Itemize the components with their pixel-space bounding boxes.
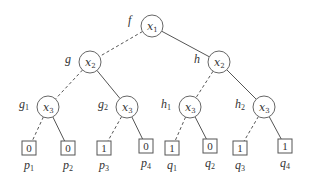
leaf-value: 1 [169, 142, 175, 154]
edge-h1-q1-dashed [175, 117, 186, 141]
edge-h2-q3-dashed [244, 116, 258, 141]
leaf-label-q1: q1 [167, 158, 177, 173]
decision-tree-diagram: x1fx2gx2hx3g1x3g2x3h1x3h2 0p10p21p30p41q… [0, 0, 312, 180]
edge-h1-q2-solid [195, 117, 206, 139]
leaf-q2: 0q2 [203, 139, 217, 171]
node-g2: x3g2 [98, 96, 138, 118]
leaf-p4: 0p4 [139, 139, 153, 171]
edge-root-g-dashed [100, 32, 143, 57]
leaf-q1: 1q1 [165, 141, 179, 173]
function-label-g1: g1 [19, 97, 29, 112]
edge-h-h1-dashed [196, 71, 213, 98]
leaf-p3: 1p3 [97, 141, 111, 173]
function-label-h: h [194, 52, 200, 66]
leaf-label-q3: q3 [235, 158, 245, 173]
edge-h-h2-solid [227, 70, 256, 99]
leaf-label-p3: p3 [98, 158, 109, 173]
node-g1: x3g1 [19, 96, 59, 118]
leaf-label-q4: q4 [280, 156, 290, 171]
edge-g-g2-solid [97, 70, 120, 98]
node-g: x2g [65, 51, 101, 73]
nodes-layer: x1fx2gx2hx3g1x3g2x3h1x3h2 [19, 13, 275, 118]
function-label-g: g [65, 52, 71, 66]
leaf-label-p4: p4 [140, 156, 151, 171]
leaf-label-p1: p1 [23, 158, 34, 173]
leaf-value: 0 [65, 142, 71, 154]
leaf-label-p2: p2 [62, 158, 73, 173]
function-label-h2: h2 [235, 97, 245, 112]
edges-layer [32, 31, 281, 141]
leaf-value: 0 [207, 140, 213, 152]
edge-root-h-solid [162, 31, 210, 57]
edge-h2-q4-solid [269, 117, 281, 139]
edge-g-g1-dashed [56, 70, 83, 99]
node-h1: x3h1 [161, 96, 201, 118]
leaf-value: 0 [26, 142, 32, 154]
node-h2: x3h2 [235, 96, 275, 118]
leaf-value: 0 [143, 140, 149, 152]
leaf-p2: 0p2 [61, 141, 75, 173]
leaf-q3: 1q3 [233, 141, 247, 173]
leaf-label-q2: q2 [205, 156, 215, 171]
function-label-g2: g2 [98, 97, 108, 112]
leaf-q4: 1q4 [278, 139, 292, 171]
edge-g1-p1-dashed [32, 117, 43, 141]
edge-g2-p3-dashed [108, 117, 122, 141]
function-label-root: f [128, 13, 133, 27]
node-root: x1f [128, 13, 163, 37]
node-h: x2h [194, 51, 230, 73]
edge-g1-p2-solid [53, 117, 65, 141]
leaf-value: 1 [101, 142, 107, 154]
leaves-layer: 0p10p21p30p41q10q21q31q4 [22, 139, 292, 173]
leaf-value: 1 [237, 142, 243, 154]
edge-g2-p4-solid [132, 117, 143, 139]
leaf-p1: 0p1 [22, 141, 36, 173]
function-label-h1: h1 [161, 97, 171, 112]
leaf-value: 1 [282, 140, 288, 152]
